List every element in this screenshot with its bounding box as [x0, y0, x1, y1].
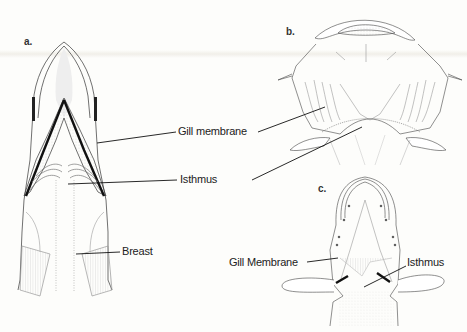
panel-b-label: b.	[286, 26, 295, 37]
panel-a-label: a.	[24, 36, 32, 47]
label-c-isthmus: Isthmus	[407, 256, 444, 268]
panel-c-label: c.	[318, 183, 326, 194]
fish-head-anatomy-figure	[0, 0, 467, 332]
panel-b-drawing	[278, 20, 462, 165]
panel-c-drawing	[282, 177, 444, 326]
label-a-breast: Breast	[122, 245, 153, 257]
label-a-gill-membrane: Gill membrane	[178, 125, 247, 137]
label-c-gill-membrane: Gill Membrane	[229, 256, 298, 268]
panel-a-drawing	[18, 42, 112, 296]
label-a-isthmus: Isthmus	[180, 173, 217, 185]
